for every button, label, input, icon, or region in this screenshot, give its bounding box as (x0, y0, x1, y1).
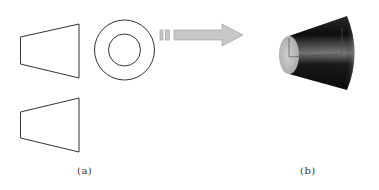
caption-b: (b) (300, 165, 316, 176)
transform-arrow (160, 24, 243, 46)
side-view-concentric-circles (95, 20, 155, 80)
front-view-trapezoid (21, 24, 80, 78)
arrow-dash-2 (166, 30, 170, 40)
arrow-body (174, 24, 243, 46)
panel-b-cone (279, 16, 355, 90)
caption-a: (a) (77, 165, 92, 176)
outer-circle (95, 20, 155, 80)
figure-canvas (0, 0, 379, 190)
arrow-dash-1 (160, 30, 163, 40)
top-view-trapezoid (21, 98, 80, 152)
inner-circle (109, 34, 141, 66)
panel-a (21, 20, 155, 152)
